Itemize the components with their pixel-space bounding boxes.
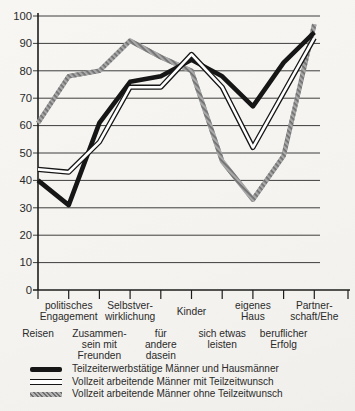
x-category-label: wirklichung <box>104 311 156 322</box>
legend-item-teilzeit: Teilzeiterwerbstätige Männer und Hausmän… <box>30 364 353 375</box>
y-tick-label-70: 70 <box>19 92 32 104</box>
legend-swatch-double-line-icon <box>30 379 62 385</box>
x-category-label: Selbstver- <box>107 300 153 311</box>
y-tick-label-80: 80 <box>19 65 32 77</box>
x-category-label: politisches <box>45 300 93 311</box>
legend-label-teilzeit: Teilzeiterwerbstätige Männer und Hausmän… <box>72 364 279 375</box>
x-category-label: für <box>155 328 167 339</box>
x-category-label: Partner- <box>296 300 333 311</box>
x-category-label: Erfolg <box>270 339 297 350</box>
x-category-label: sein mit <box>82 339 117 350</box>
y-tick-label-40: 40 <box>19 174 32 186</box>
y-tick-label-30: 30 <box>19 202 32 214</box>
chart-legend: Teilzeiterwerbstätige Männer und Hausmän… <box>30 364 353 400</box>
legend-item-vollzeit-mit-wunsch: Vollzeit arbeitende Männer mit Teilzeitw… <box>30 377 353 388</box>
series-line-teilzeit-hausmaenner <box>38 32 314 205</box>
legend-swatch-thick-black-line-icon <box>30 367 62 372</box>
x-category-label: Freunden <box>78 350 122 361</box>
y-tick-label-20: 20 <box>19 229 32 241</box>
legend-item-vollzeit-ohne-wunsch: Vollzeit arbeitende Männer ohne Teilzeit… <box>30 389 353 400</box>
legend-label-vollzeit-ohne-wunsch: Vollzeit arbeitende Männer ohne Teilzeit… <box>72 389 283 400</box>
x-category-label: Reisen <box>22 328 54 339</box>
legend-label-vollzeit-mit-wunsch: Vollzeit arbeitende Männer mit Teilzeitw… <box>72 377 274 388</box>
x-category-label: andere <box>145 339 177 350</box>
y-tick-label-10: 10 <box>19 256 32 268</box>
x-category-label: schaft/Ehe <box>290 311 338 322</box>
x-category-label: Engagement <box>40 311 98 322</box>
legend-swatch-hatched-gray-line-icon <box>30 392 62 397</box>
series-line-vollzeit-mit-teilzeitwunsch-core <box>38 38 314 172</box>
x-category-label: Kinder <box>177 306 207 317</box>
y-tick-label-0: 0 <box>26 284 32 296</box>
series-line-vollzeit-mit-teilzeitwunsch-outline <box>38 38 314 172</box>
y-tick-label-50: 50 <box>19 147 32 159</box>
x-category-label: beruflicher <box>260 328 308 339</box>
line-chart: 0102030405060708090100ReisenpolitischesE… <box>0 0 355 411</box>
scanned-chart-figure: 0102030405060708090100ReisenpolitischesE… <box>0 0 355 411</box>
x-category-label: Zusammen- <box>72 328 126 339</box>
y-tick-label-60: 60 <box>19 119 32 131</box>
x-category-label: dasein <box>146 350 176 361</box>
x-category-label: sich etwas <box>198 328 246 339</box>
x-category-label: leisten <box>207 339 236 350</box>
x-category-label: eigenes <box>235 300 271 311</box>
y-tick-label-90: 90 <box>19 37 32 49</box>
x-category-label: Haus <box>241 311 265 322</box>
y-tick-label-100: 100 <box>13 10 32 22</box>
